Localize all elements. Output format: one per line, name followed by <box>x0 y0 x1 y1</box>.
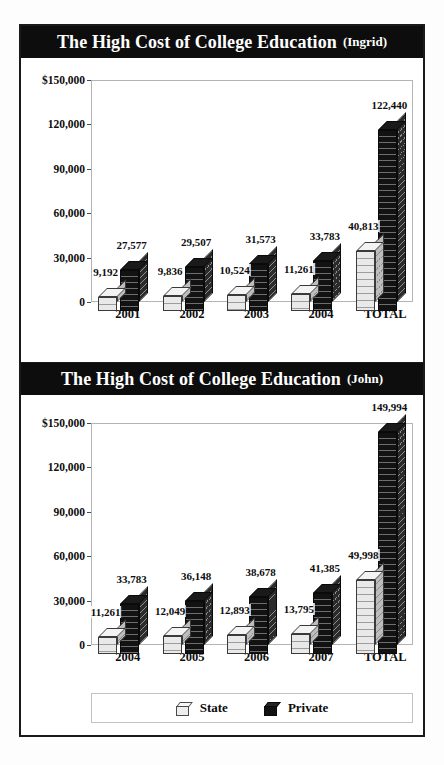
y-axis-tick-mark <box>87 124 91 125</box>
y-axis-tick-label: 120,000 <box>21 461 85 473</box>
y-axis-tick-label: 60,000 <box>21 207 85 219</box>
bar-state-2002 <box>163 287 191 311</box>
y-axis-tick-mark <box>87 423 91 424</box>
bar-value-label: 12,893 <box>218 604 250 616</box>
chart-title-banner-john: The High Cost of College Education (John… <box>21 363 423 395</box>
bar-front-face <box>163 296 182 311</box>
y-axis-tick-mark <box>87 258 91 259</box>
bar-value-label: 9,836 <box>157 265 184 277</box>
bar-state-2007 <box>291 625 319 654</box>
chart-title-subtitle: (Ingrid) <box>343 34 387 50</box>
bar-value-label: 41,385 <box>309 562 341 574</box>
chart-title-subtitle: (John) <box>347 371 383 387</box>
bar-state-total <box>356 571 384 654</box>
bar-front-face <box>291 634 310 654</box>
bar-state-2003 <box>227 286 255 311</box>
bar-state-2006 <box>227 626 255 654</box>
bar-value-label: 122,440 <box>370 99 408 111</box>
y-axis-tick-mark <box>87 645 91 646</box>
bar-value-label: 33,783 <box>309 230 341 242</box>
bar-value-label: 36,148 <box>180 570 212 582</box>
y-axis-tick-label: 30,000 <box>21 595 85 607</box>
bar-state-2001 <box>98 288 126 311</box>
bar-state-2004 <box>98 628 126 654</box>
bar-state-total <box>356 242 384 311</box>
figure-page: The High Cost of College Education (Ingr… <box>0 0 444 765</box>
private-swatch-icon <box>264 701 281 716</box>
y-axis-tick-label: 90,000 <box>21 163 85 175</box>
bar-state-2004 <box>291 285 319 311</box>
y-axis-tick-mark <box>87 601 91 602</box>
y-axis-tick-mark <box>87 80 91 81</box>
y-axis-tick-label: 60,000 <box>21 550 85 562</box>
chart-plot-region-ingrid: 030,00060,00090,000120,000$150,0009,1922… <box>21 58 423 362</box>
bar-value-label: 27,577 <box>116 239 148 251</box>
bar-value-label: 10,524 <box>218 264 250 276</box>
bar-value-label: 31,573 <box>244 233 276 245</box>
swatch-front <box>264 706 277 716</box>
y-axis-tick-label: 0 <box>21 296 85 308</box>
bar-value-label: 29,507 <box>180 236 212 248</box>
state-swatch-icon <box>176 701 193 716</box>
bar-front-face <box>356 580 375 654</box>
bar-front-face <box>227 635 246 654</box>
y-axis-tick-mark <box>87 213 91 214</box>
bar-value-label: 40,813 <box>347 220 379 232</box>
chart-legend: StatePrivate <box>91 693 413 723</box>
swatch-front <box>176 706 189 716</box>
bar-value-label: 13,795 <box>283 603 315 615</box>
bar-side-face <box>139 252 148 302</box>
y-axis-tick-mark <box>87 302 91 303</box>
bar-front-face <box>356 251 375 311</box>
bar-value-label: 149,994 <box>370 401 408 413</box>
bar-value-label: 49,998 <box>347 549 379 561</box>
chart-plot-region-john: 030,00060,00090,000120,000$150,00011,261… <box>21 395 423 735</box>
legend-label: Private <box>288 700 328 716</box>
chart-title-main: The High Cost of College Education <box>61 369 341 390</box>
bar-value-label: 38,678 <box>244 566 276 578</box>
legend-item-state[interactable]: State <box>176 700 228 716</box>
chart-panel-ingrid: The High Cost of College Education (Ingr… <box>21 26 423 362</box>
bar-value-label: 33,783 <box>116 573 148 585</box>
y-axis-tick-label: $150,000 <box>21 74 85 86</box>
bar-value-label: 11,261 <box>283 263 315 275</box>
y-axis-tick-label: $150,000 <box>21 417 85 429</box>
bar-front-face <box>98 637 117 654</box>
legend-item-private[interactable]: Private <box>264 700 328 716</box>
bar-front-face <box>291 294 310 311</box>
bar-value-label: 9,192 <box>92 266 119 278</box>
bar-state-2005 <box>163 627 191 654</box>
bar-value-label: 12,049 <box>154 605 186 617</box>
chart-title-main: The High Cost of College Education <box>57 32 337 53</box>
y-axis-tick-label: 30,000 <box>21 252 85 264</box>
bar-front-face <box>163 636 182 654</box>
bar-front-face <box>227 295 246 311</box>
figure-frame: The High Cost of College Education (Ingr… <box>19 24 425 737</box>
y-axis-tick-label: 120,000 <box>21 118 85 130</box>
bar-side-face <box>397 414 406 645</box>
y-axis-tick-label: 0 <box>21 639 85 651</box>
y-axis-tick-mark <box>87 512 91 513</box>
chart-title-banner-ingrid: The High Cost of College Education (Ingr… <box>21 26 423 58</box>
y-axis-tick-mark <box>87 556 91 557</box>
bar-front-face <box>98 297 117 311</box>
bar-side-face <box>397 112 406 302</box>
y-axis-tick-mark <box>87 467 91 468</box>
y-axis-tick-label: 90,000 <box>21 506 85 518</box>
legend-label: State <box>200 700 228 716</box>
y-axis-tick-mark <box>87 169 91 170</box>
chart-panel-john: The High Cost of College Education (John… <box>21 363 423 735</box>
bar-value-label: 11,261 <box>90 606 122 618</box>
